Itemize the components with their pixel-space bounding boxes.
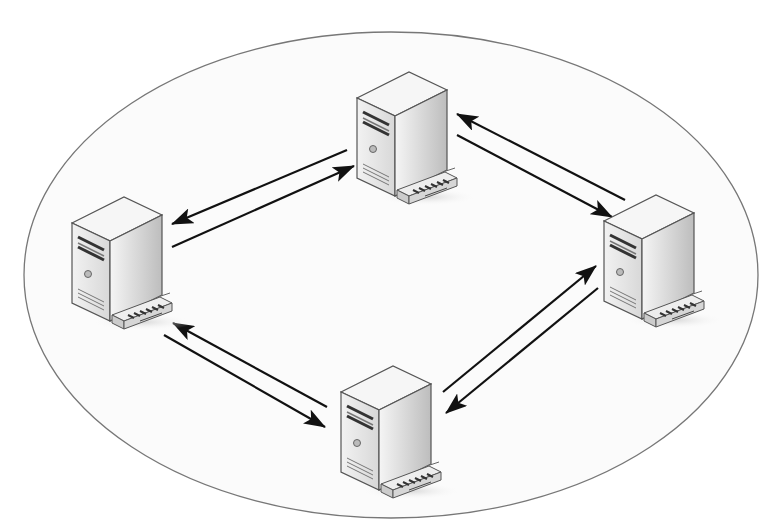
network-diagram (0, 0, 780, 529)
